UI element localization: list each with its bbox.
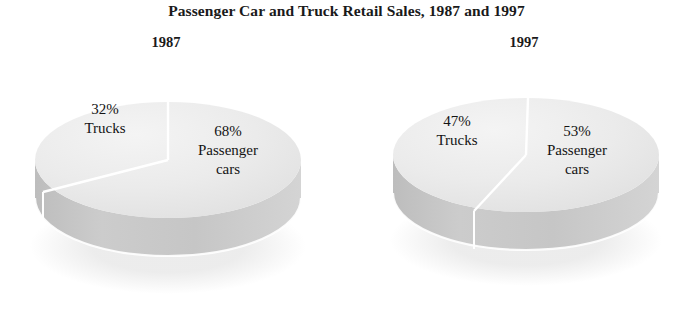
slice-percent: 53% — [504, 122, 650, 141]
pie-chart-figure: Passenger Car and Truck Retail Sales, 19… — [0, 0, 693, 311]
slice-name-line1: Passenger — [158, 141, 298, 160]
slice-name-line2: cars — [504, 160, 650, 179]
slice-name: Trucks — [50, 119, 160, 138]
pie-1997-graphic — [378, 60, 678, 308]
pie-1987-graphic — [18, 60, 318, 308]
slice-name-line2: cars — [158, 160, 298, 179]
chart-year-label-1987: 1987 — [96, 34, 236, 51]
pie-slice-label-passenger-cars-1987: 68% Passenger cars — [158, 122, 298, 180]
slice-percent: 32% — [50, 100, 160, 119]
pie-slice-label-trucks-1997: 47% Trucks — [402, 112, 512, 150]
slice-name: Trucks — [402, 131, 512, 150]
pie-slice-label-passenger-cars-1997: 53% Passenger cars — [504, 122, 650, 180]
pie-slice-label-trucks-1987: 32% Trucks — [50, 100, 160, 138]
pie-chart-1997: 47% Trucks 53% Passenger cars — [378, 60, 678, 308]
page-title: Passenger Car and Truck Retail Sales, 19… — [0, 2, 693, 20]
slice-name-line1: Passenger — [504, 141, 650, 160]
slice-percent: 68% — [158, 122, 298, 141]
pie-chart-1987: 32% Trucks 68% Passenger cars — [18, 60, 318, 308]
slice-percent: 47% — [402, 112, 512, 131]
chart-year-label-1997: 1997 — [454, 34, 594, 51]
